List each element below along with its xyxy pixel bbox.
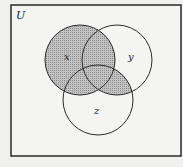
set-z-label: z (93, 105, 100, 116)
venn-diagram: U x y z (0, 0, 183, 167)
set-y-label: y (127, 51, 134, 62)
set-x-label: x (64, 51, 70, 62)
universe-label: U (16, 9, 26, 22)
